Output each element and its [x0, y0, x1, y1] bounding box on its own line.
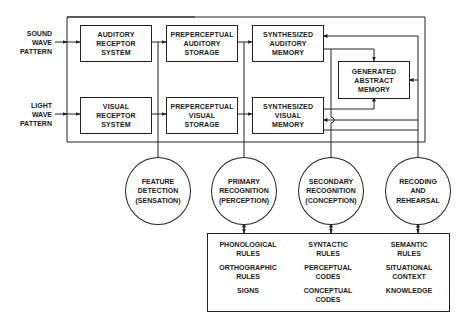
box-text: AUDITORY [98, 30, 135, 39]
knowledge-item: KNOWLEDGE [369, 286, 449, 295]
knowledge-box: PHONOLOGICAL RULES ORTHOGRAPHIC RULES SI… [207, 233, 450, 312]
knowledge-column-syntactic: SYNTACTIC RULES PERCEPTUAL CODES CONCEPT… [288, 240, 368, 309]
synthesized-auditory-memory-box: SYNTHESIZED AUDITORY MEMORY [252, 25, 324, 62]
box-text: PREPERCEPTUAL [170, 102, 233, 111]
circle-text: (PERCEPTION) [219, 196, 269, 206]
box-text: SYNTHESIZED [263, 30, 313, 39]
knowledge-column-phonological: PHONOLOGICAL RULES ORTHOGRAPHIC RULES SI… [208, 240, 288, 300]
knowledge-text: CONTEXT [369, 272, 449, 281]
box-text: MEMORY [272, 48, 304, 57]
knowledge-item: ORTHOGRAPHIC RULES [208, 263, 288, 281]
box-text: VISUAL [189, 111, 215, 120]
circle-text: FEATURE [142, 177, 175, 187]
label-line: PATTERN [0, 119, 52, 128]
light-wave-pattern-label: LIGHT WAVE PATTERN [0, 101, 52, 128]
knowledge-column-semantic: SEMANTIC RULES SITUATIONAL CONTEXT KNOWL… [369, 240, 449, 300]
knowledge-text: CODES [288, 295, 368, 304]
box-text: SYSTEM [101, 120, 130, 129]
box-text: GENERATED [352, 67, 396, 76]
knowledge-item: SEMANTIC RULES [369, 240, 449, 258]
knowledge-text: SYNTACTIC [288, 240, 368, 249]
knowledge-text: ORTHOGRAPHIC [208, 263, 288, 272]
knowledge-text: CONCEPTUAL [288, 286, 368, 295]
sound-wave-pattern-label: SOUND WAVE PATTERN [0, 29, 52, 56]
knowledge-text: PERCEPTUAL [288, 263, 368, 272]
circle-text: DETECTION [138, 186, 178, 196]
knowledge-item: SITUATIONAL CONTEXT [369, 263, 449, 281]
label-line: LIGHT [0, 101, 52, 110]
box-text: STORAGE [184, 48, 219, 57]
box-text: RECEPTOR [96, 39, 136, 48]
circle-text: PRIMARY [228, 177, 260, 187]
circle-text: SECONDARY [309, 177, 353, 187]
knowledge-text: RULES [208, 249, 288, 258]
circle-text: (CONCEPTION) [305, 196, 356, 206]
circle-text: REHEARSAL [396, 196, 440, 206]
box-text: MEMORY [272, 120, 304, 129]
label-line: SOUND [0, 29, 52, 38]
knowledge-text: SIGNS [208, 286, 288, 295]
knowledge-item: PHONOLOGICAL RULES [208, 240, 288, 258]
visual-receptor-system-box: VISUAL RECEPTOR SYSTEM [80, 97, 152, 134]
box-text: VISUAL [103, 102, 129, 111]
label-line: PATTERN [0, 47, 52, 56]
knowledge-text: KNOWLEDGE [369, 286, 449, 295]
box-text: AUDITORY [270, 39, 307, 48]
preperceptual-visual-storage-box: PREPERCEPTUAL VISUAL STORAGE [166, 97, 238, 134]
box-text: ABSTRACT [354, 76, 393, 85]
knowledge-text: RULES [369, 249, 449, 258]
knowledge-text: CODES [288, 272, 368, 281]
knowledge-item: SIGNS [208, 286, 288, 295]
label-line: WAVE [0, 110, 52, 119]
box-text: SYNTHESIZED [263, 102, 313, 111]
auditory-receptor-system-box: AUDITORY RECEPTOR SYSTEM [80, 25, 152, 62]
knowledge-text: RULES [208, 272, 288, 281]
secondary-recognition-circle: SECONDARY RECOGNITION (CONCEPTION) [298, 157, 364, 225]
circle-text: (SENSATION) [136, 196, 181, 206]
knowledge-item: SYNTACTIC RULES [288, 240, 368, 258]
knowledge-item: PERCEPTUAL CODES [288, 263, 368, 281]
box-text: MEMORY [358, 85, 390, 94]
circle-text: RECODING [399, 177, 437, 187]
primary-recognition-circle: PRIMARY RECOGNITION (PERCEPTION) [211, 157, 277, 225]
recoding-rehearsal-circle: RECODING AND REHEARSAL [385, 157, 451, 225]
label-line: WAVE [0, 38, 52, 47]
knowledge-text: SITUATIONAL [369, 263, 449, 272]
box-text: PREPERCEPTUAL [170, 30, 233, 39]
knowledge-text: SEMANTIC [369, 240, 449, 249]
circle-text: RECOGNITION [219, 186, 268, 196]
knowledge-text: RULES [288, 249, 368, 258]
generated-abstract-memory-box: GENERATED ABSTRACT MEMORY [338, 61, 410, 99]
preperceptual-auditory-storage-box: PREPERCEPTUAL AUDITORY STORAGE [166, 25, 238, 62]
synthesized-visual-memory-box: SYNTHESIZED VISUAL MEMORY [252, 97, 324, 134]
feature-detection-circle: FEATURE DETECTION (SENSATION) [125, 157, 191, 225]
knowledge-item: CONCEPTUAL CODES [288, 286, 368, 304]
box-text: VISUAL [275, 111, 301, 120]
circle-text: RECOGNITION [306, 186, 355, 196]
circle-text: AND [410, 186, 425, 196]
box-text: RECEPTOR [96, 111, 136, 120]
box-text: SYSTEM [101, 48, 130, 57]
knowledge-text: PHONOLOGICAL [208, 240, 288, 249]
box-text: STORAGE [184, 120, 219, 129]
box-text: AUDITORY [184, 39, 221, 48]
